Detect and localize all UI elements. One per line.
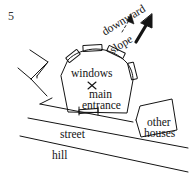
figure-canvas: 5 windows main entrance street hill othe… <box>0 0 190 187</box>
label-houses: houses <box>144 128 175 140</box>
label-street: street <box>60 129 85 141</box>
left-building-base <box>40 98 52 104</box>
label-windows: windows <box>71 68 113 80</box>
left-building-lower <box>18 68 47 96</box>
left-building-corner <box>31 62 48 79</box>
label-hill: hill <box>52 150 67 162</box>
label-entrance: entrance <box>82 100 121 112</box>
left-building-upper <box>30 50 48 76</box>
figure-number: 5 <box>8 10 14 22</box>
street-line-lower <box>20 136 188 172</box>
